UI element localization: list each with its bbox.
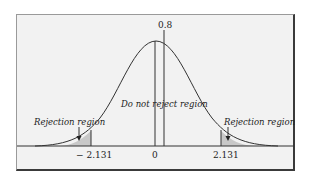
test-statistic-label: 0.8: [158, 20, 173, 30]
t-distribution-diagram: 0.8 Do not reject region Rejection regio…: [0, 0, 310, 179]
do-not-reject-label: Do not reject region: [120, 99, 208, 109]
density-curve: [35, 41, 278, 146]
tick-neg-critical: − 2.131: [76, 150, 112, 160]
tick-pos-critical: 2.131: [213, 150, 239, 160]
tick-zero: 0: [152, 150, 158, 160]
left-rejection-label: Rejection region: [33, 117, 105, 127]
right-rejection-label: Rejection region: [223, 117, 295, 127]
